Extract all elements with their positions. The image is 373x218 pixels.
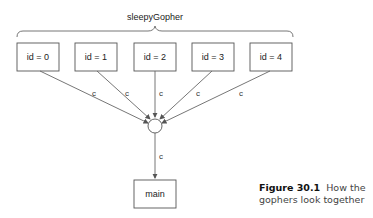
node-gopher-1: id = 1 [75, 43, 117, 71]
svg-text:id = 3: id = 3 [202, 52, 224, 62]
node-gopher-2: id = 2 [134, 43, 176, 71]
svg-text:id = 4: id = 4 [260, 52, 282, 62]
svg-text:id = 1: id = 1 [85, 52, 107, 62]
edge-label-0: c [92, 89, 96, 98]
svg-text:main: main [145, 189, 165, 199]
svg-text:id = 0: id = 0 [27, 52, 49, 62]
node-gopher-4: id = 4 [250, 43, 292, 71]
node-gopher-0: id = 0 [17, 43, 59, 71]
edge-label-1: c [125, 89, 129, 98]
edge-label-main: c [159, 152, 163, 161]
figure-number: Figure 30.1 [259, 182, 320, 193]
figure-caption: Figure 30.1How the gophers look together [259, 182, 373, 206]
group-label: sleepyGopher [127, 12, 183, 22]
node-main: main [134, 180, 176, 208]
edge-label-3: c [196, 89, 200, 98]
svg-text:id = 2: id = 2 [144, 52, 166, 62]
edge-label-2: c [159, 89, 163, 98]
group-brace [17, 26, 293, 37]
edge-label-4: c [239, 89, 243, 98]
node-gopher-3: id = 3 [192, 43, 234, 71]
channel-node [148, 119, 162, 133]
